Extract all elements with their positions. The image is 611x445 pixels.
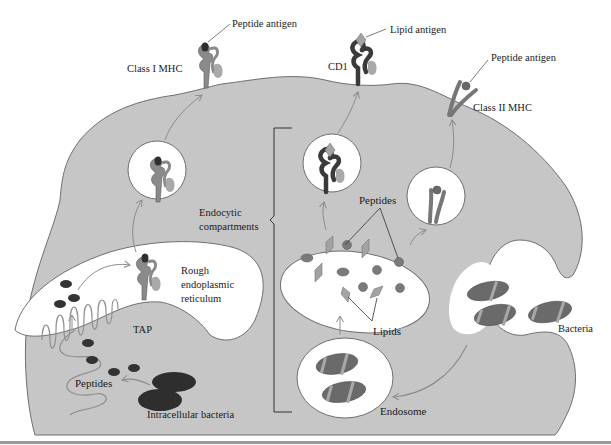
label-bacteria: Bacteria (558, 323, 593, 334)
label-class1-peptide-antigen: Peptide antigen (232, 18, 298, 29)
cd1-surface (352, 33, 376, 84)
intracellular-bacterium (138, 389, 182, 411)
bottom-rule (0, 441, 611, 444)
label-peptides-endocytic: Peptides (359, 194, 396, 206)
class2-peptide-surface (462, 82, 470, 90)
cd1-vesicle (303, 134, 361, 192)
label-rer-line3: reticulum (181, 293, 221, 304)
class1-mhc-surface (198, 43, 222, 89)
label-endocytic-line1: Endocytic (199, 207, 242, 218)
intracellular-bacterium (152, 372, 196, 392)
class2-peptide-leader (470, 60, 488, 82)
cytosolic-peptide (60, 280, 72, 288)
class2-peptide-in-vesicle (433, 186, 441, 194)
cytosolic-peptide (128, 364, 140, 372)
label-class2-peptide-antigen: Peptide antigen (491, 52, 557, 63)
label-lipids: Lipids (373, 325, 401, 337)
class1-peptide-leader (208, 24, 230, 42)
endosome (297, 338, 393, 418)
label-class2-mhc: Class II MHC (473, 102, 532, 113)
label-peptides-cytosol: Peptides (75, 377, 112, 389)
label-endocytic-line2: compartments (199, 221, 258, 232)
cytosolic-peptide (68, 294, 80, 302)
lipid-antigen-leader (366, 29, 386, 37)
cytosolic-peptide (54, 300, 66, 308)
label-cd1: CD1 (328, 61, 348, 72)
cytosolic-peptide (86, 356, 98, 364)
label-rer-line2: endoplasmic (181, 279, 234, 290)
label-intracellular-bacteria: Intracellular bacteria (147, 409, 234, 420)
label-lipid-antigen: Lipid antigen (390, 24, 447, 35)
label-endosome: Endosome (380, 405, 427, 417)
label-tap: TAP (133, 324, 152, 335)
label-rer-line1: Rough (181, 265, 210, 276)
label-class1-mhc: Class I MHC (127, 63, 182, 74)
cytosolic-peptide (108, 368, 120, 376)
cytosolic-peptide (82, 339, 94, 347)
antigen-presentation-diagram: Peptide antigen Class I MHC Lipid antige… (0, 0, 611, 445)
